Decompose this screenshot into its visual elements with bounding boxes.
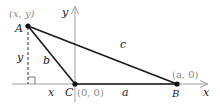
right-angle-marker-icon bbox=[28, 77, 35, 84]
vertex-b-label: B bbox=[171, 88, 179, 99]
side-b-label: b bbox=[43, 54, 50, 67]
side-a-label: a bbox=[122, 86, 129, 99]
coord-b-label: (a, 0) bbox=[172, 69, 199, 80]
base-x-label: x bbox=[48, 86, 55, 99]
height-y-label: y bbox=[16, 51, 24, 64]
vertex-b-dot bbox=[174, 81, 179, 86]
side-c-label: c bbox=[120, 38, 126, 51]
triangle-diagram: y x A C B (x, y) (0, 0) (a, 0) c b a y x bbox=[0, 0, 220, 104]
vertex-a-dot bbox=[25, 23, 30, 28]
side-c bbox=[28, 26, 177, 84]
y-axis-label: y bbox=[61, 6, 69, 19]
coord-a-label: (x, y) bbox=[9, 8, 35, 19]
diagram-canvas: y x A C B (x, y) (0, 0) (a, 0) c b a y x bbox=[0, 0, 220, 104]
coord-c-label: (0, 0) bbox=[77, 87, 104, 98]
x-axis-label: x bbox=[203, 86, 210, 99]
vertex-a-label: A bbox=[14, 22, 23, 35]
vertex-c-label: C bbox=[65, 86, 74, 99]
